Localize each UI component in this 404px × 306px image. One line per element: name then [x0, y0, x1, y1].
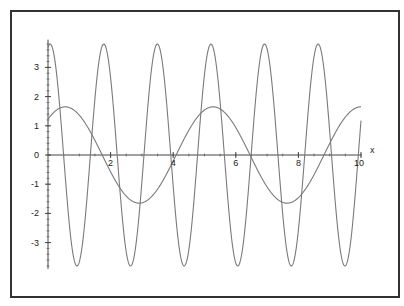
x-tick-label: 8 — [296, 158, 301, 168]
y-tick-label: -3 — [31, 238, 39, 248]
y-tick-label: 1 — [34, 121, 39, 131]
y-tick-label: -2 — [31, 208, 39, 218]
x-tick-label: 6 — [233, 158, 238, 168]
x-tick-label: 4 — [171, 158, 176, 168]
y-tick-label: -1 — [31, 179, 39, 189]
x-tick-label: 2 — [108, 158, 113, 168]
axes — [45, 40, 361, 269]
x-axis-label: x — [370, 145, 375, 155]
x-tick-label: 10 — [354, 158, 364, 168]
y-tick-label: 2 — [34, 92, 39, 102]
y-tick-label: 3 — [34, 62, 39, 72]
y-tick-label: 0 — [34, 150, 39, 160]
plot-canvas: -3-2-10123246810x — [0, 0, 404, 306]
